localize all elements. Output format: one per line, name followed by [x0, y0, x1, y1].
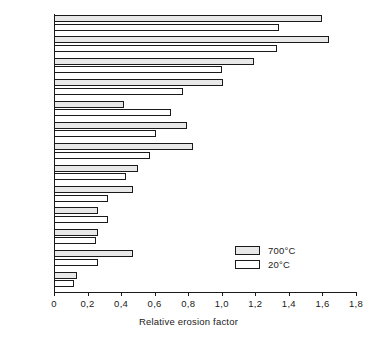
- bar-20c-k-86: [54, 88, 183, 95]
- category-row: K-86: [54, 78, 356, 99]
- bar-20c-k-714: [54, 237, 96, 244]
- x-tick-label: 0,6: [148, 298, 162, 309]
- x-tick: [54, 292, 55, 296]
- legend-label-20c: 20°C: [268, 259, 290, 270]
- bar-700c-k-90: [54, 58, 254, 65]
- x-tick: [188, 292, 189, 296]
- bar-700c-k-151a: [54, 15, 322, 22]
- bar-20c-k-701: [54, 259, 98, 266]
- x-tick: [155, 292, 156, 296]
- legend-entry-cold: 20°C: [235, 257, 296, 271]
- bar-20c-k-90: [54, 66, 222, 73]
- x-tick: [255, 292, 256, 296]
- plot-area: K-151AK-162BK-90K-86W-103109K-94K-683406…: [54, 14, 356, 292]
- bar-20c-3109: [54, 130, 156, 137]
- bar-700c-k-86: [54, 79, 223, 86]
- bar-700c-k-801: [54, 207, 98, 214]
- x-tick: [322, 292, 323, 296]
- bar-20c-w-10: [54, 109, 171, 116]
- legend-label-700c: 700°C: [268, 245, 296, 256]
- category-row: K-714: [54, 228, 356, 249]
- x-tick-label: 0,8: [181, 298, 195, 309]
- bar-20c-k-94: [54, 152, 150, 159]
- bar-20c-k-68: [54, 173, 126, 180]
- category-row: K-94: [54, 142, 356, 163]
- category-row: K-701: [54, 249, 356, 270]
- bar-700c-k-714: [54, 229, 98, 236]
- x-tick: [356, 292, 357, 296]
- category-row: K-68: [54, 164, 356, 185]
- bar-700c-k-94: [54, 143, 193, 150]
- category-row: K-602: [54, 271, 356, 292]
- relative-erosion-factor-chart: K-151AK-162BK-90K-86W-103109K-94K-683406…: [0, 0, 377, 342]
- legend-swatch-20c-icon: [235, 260, 260, 269]
- x-tick-label: 1,4: [282, 298, 296, 309]
- x-tick-label: 0,2: [80, 298, 94, 309]
- bar-700c-k-701: [54, 250, 133, 257]
- legend: 700°C 20°C: [235, 243, 296, 271]
- x-tick: [88, 292, 89, 296]
- x-tick: [222, 292, 223, 296]
- x-tick-label: 1,6: [315, 298, 329, 309]
- x-tick-label: 1,8: [349, 298, 363, 309]
- legend-entry-hot: 700°C: [235, 243, 296, 257]
- category-row: K-162B: [54, 35, 356, 56]
- bar-20c-3406: [54, 195, 108, 202]
- bar-20c-k-801: [54, 216, 108, 223]
- x-axis-line: [54, 292, 357, 293]
- category-row: K-801: [54, 206, 356, 227]
- x-tick: [289, 292, 290, 296]
- bar-700c-3406: [54, 186, 133, 193]
- category-row: 3109: [54, 121, 356, 142]
- bar-20c-k-151a: [54, 24, 279, 31]
- x-tick-label: 1,2: [248, 298, 262, 309]
- x-tick-label: 0: [51, 298, 57, 309]
- legend-swatch-700c-icon: [235, 246, 260, 255]
- category-row: 3406: [54, 185, 356, 206]
- bar-700c-w-10: [54, 101, 124, 108]
- bar-700c-k-68: [54, 165, 138, 172]
- x-tick: [121, 292, 122, 296]
- x-tick-label: 0,4: [114, 298, 128, 309]
- x-axis-title: Relative erosion factor: [0, 316, 377, 327]
- x-tick-label: 1,0: [215, 298, 229, 309]
- category-row: K-90: [54, 57, 356, 78]
- bar-20c-k-602: [54, 280, 74, 287]
- bar-20c-k-162b: [54, 45, 277, 52]
- category-row: K-151A: [54, 14, 356, 35]
- bar-700c-3109: [54, 122, 187, 129]
- category-row: W-10: [54, 100, 356, 121]
- bar-700c-k-602: [54, 272, 77, 279]
- bar-700c-k-162b: [54, 36, 329, 43]
